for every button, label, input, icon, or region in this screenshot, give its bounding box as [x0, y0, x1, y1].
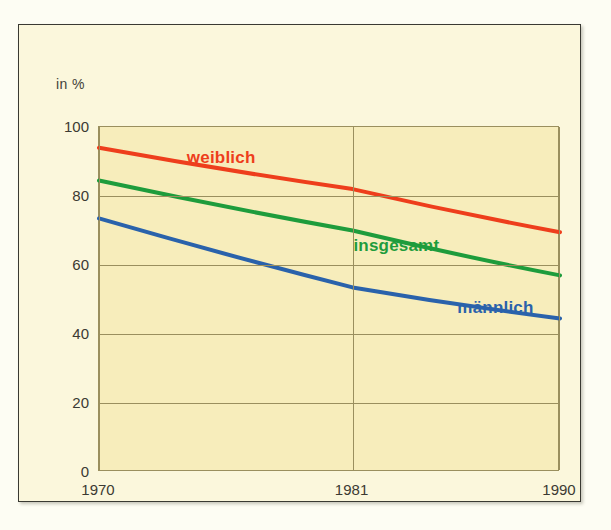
y-axis-tick-label: 60 — [43, 256, 89, 273]
y-axis-tick-label: 40 — [43, 325, 89, 342]
y-axis-tick-label: 0 — [43, 463, 89, 480]
gridline-vertical — [353, 127, 354, 470]
x-axis-tick-labels: 197019811990 — [98, 481, 559, 503]
chart-card: in % 020406080100 weiblichinsgesamtmännl… — [18, 24, 581, 502]
series-label-männlich: männlich — [457, 298, 533, 318]
gridline-horizontal — [99, 196, 558, 197]
y-axis-tick-label: 20 — [43, 394, 89, 411]
x-axis-tick-label: 1970 — [81, 481, 114, 498]
series-label-weiblich: weiblich — [187, 148, 256, 168]
series-line-insgesamt — [99, 180, 560, 275]
y-axis-tick-labels: 020406080100 — [41, 126, 89, 471]
gridline-horizontal — [99, 334, 558, 335]
gridline-horizontal — [99, 403, 558, 404]
series-line-weiblich — [99, 148, 560, 233]
x-axis-tick-label: 1981 — [335, 481, 368, 498]
plot-area: weiblichinsgesamtmännlich — [98, 126, 559, 471]
figure-canvas: in % 020406080100 weiblichinsgesamtmännl… — [0, 0, 611, 530]
series-label-insgesamt: insgesamt — [353, 236, 439, 256]
y-axis-tick-label: 80 — [43, 187, 89, 204]
y-axis-tick-label: 100 — [43, 118, 89, 135]
gridline-vertical — [559, 127, 560, 470]
y-axis-unit-label: in % — [56, 76, 85, 92]
gridline-vertical — [99, 127, 100, 470]
x-axis-tick-label: 1990 — [542, 481, 575, 498]
gridline-horizontal — [99, 265, 558, 266]
